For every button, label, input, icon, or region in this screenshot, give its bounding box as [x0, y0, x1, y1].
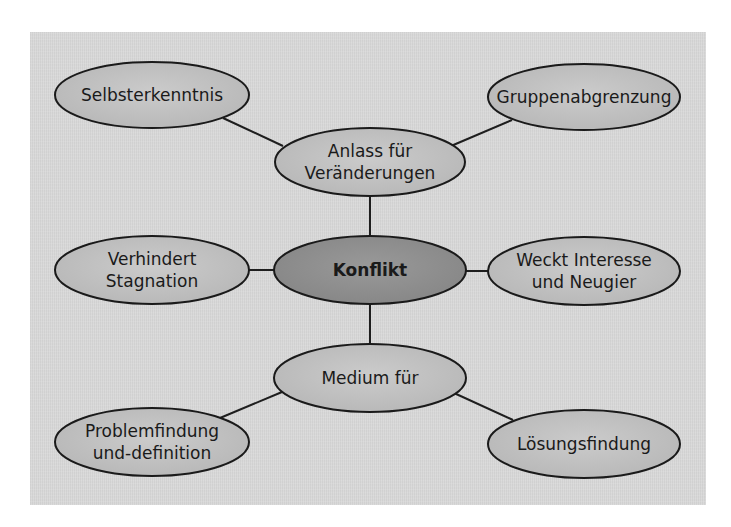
node-label: und-definition: [93, 443, 212, 463]
node-verhindert: VerhindertStagnation: [55, 236, 249, 304]
node-loesungsfindung: Lösungsfindung: [488, 410, 680, 478]
edge-anlass-selbsterkenntnis: [223, 118, 283, 146]
node-weckt: Weckt Interesseund Neugier: [488, 237, 680, 305]
node-ellipse: [488, 237, 680, 305]
node-ellipse: [55, 408, 249, 476]
edge-medium-problemfindung: [220, 392, 282, 418]
node-problemfindung: Problemfindungund-definition: [55, 408, 249, 476]
node-label: und Neugier: [532, 272, 637, 292]
node-label: Stagnation: [106, 271, 198, 291]
node-label: Selbsterkenntnis: [81, 85, 223, 105]
node-label: Problemfindung: [85, 421, 219, 441]
node-ellipse: [55, 236, 249, 304]
node-label: Lösungsfindung: [517, 434, 651, 454]
node-label: Weckt Interesse: [516, 250, 652, 270]
node-medium: Medium für: [274, 344, 466, 412]
edge-anlass-gruppenabgrenzung: [451, 120, 512, 146]
node-label: Medium für: [321, 368, 418, 388]
node-konflikt: Konflikt: [274, 236, 466, 304]
mind-map: Anlass fürVeränderungenSelbsterkenntnisG…: [0, 0, 731, 527]
node-label: Anlass für: [328, 141, 412, 161]
edge-medium-loesungsfindung: [454, 393, 513, 420]
nodes-group: Anlass fürVeränderungenSelbsterkenntnisG…: [55, 62, 680, 478]
node-label: Gruppenabgrenzung: [497, 87, 672, 107]
node-label: Verhindert: [108, 249, 197, 269]
node-anlass: Anlass fürVeränderungen: [275, 128, 465, 196]
node-label: Veränderungen: [305, 163, 436, 183]
node-ellipse: [275, 128, 465, 196]
node-gruppenabgrenzung: Gruppenabgrenzung: [488, 64, 680, 130]
node-selbsterkenntnis: Selbsterkenntnis: [55, 62, 249, 128]
node-label: Konflikt: [333, 260, 408, 280]
